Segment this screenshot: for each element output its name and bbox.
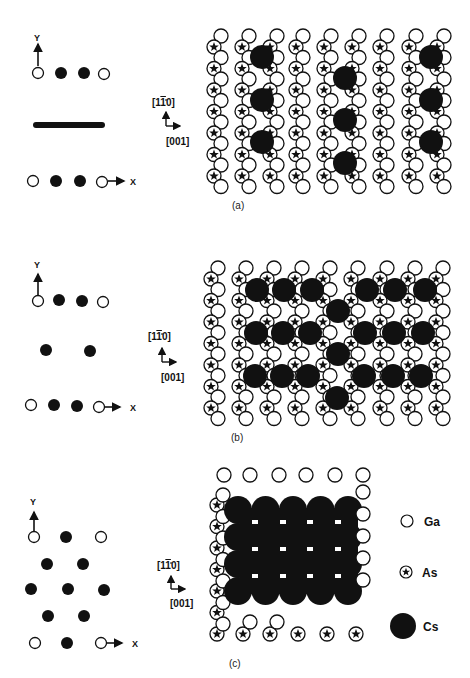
caption-c: (c) <box>229 658 241 669</box>
lattice-c <box>210 468 370 641</box>
schematic-b: Y X <box>26 260 137 413</box>
direction-001-label: [001] <box>170 598 193 609</box>
caption-b: (b) <box>231 432 243 443</box>
panel-b: Y X [110] [001] (b) <box>26 260 451 443</box>
svg-text:As: As <box>422 566 438 580</box>
legend: Ga As Cs <box>390 515 440 639</box>
schematic-c: Y X <box>25 497 138 649</box>
legend-item-as: As <box>400 566 438 580</box>
x-axis-label: X <box>132 639 138 649</box>
svg-text:Cs: Cs <box>423 620 439 634</box>
x-axis-label: X <box>130 177 136 187</box>
lattice-b <box>204 261 450 426</box>
y-axis-label: Y <box>34 260 40 270</box>
direction-indicator-b: [110] [001] <box>148 331 184 383</box>
lattice-a <box>207 29 451 194</box>
x-axis-label: X <box>130 403 136 413</box>
direction-110-label: [110] <box>152 97 175 108</box>
direction-001-label: [001] <box>166 136 189 147</box>
svg-text:Ga: Ga <box>424 515 440 529</box>
panel-c: Y X [110] [001] (c) <box>25 468 440 669</box>
legend-item-ga: Ga <box>401 515 440 529</box>
schematic-a: Y X <box>28 33 137 188</box>
y-axis-label: Y <box>30 497 36 507</box>
y-axis-label: Y <box>34 33 40 43</box>
direction-110-label: [110] <box>148 331 171 342</box>
ga-icon <box>401 515 413 527</box>
direction-110-label: [110] <box>157 560 180 571</box>
cs-icon <box>390 613 416 639</box>
cs-chain-bar <box>33 122 105 128</box>
panel-a: Y X [110] [001] (a) <box>28 29 452 211</box>
figure-canvas: Y X [110] [001] (a) Y <box>0 0 470 678</box>
direction-001-label: [001] <box>161 372 184 383</box>
direction-indicator-c: [110] [001] <box>157 560 193 609</box>
direction-indicator-a: [110] [001] <box>152 97 189 147</box>
caption-a: (a) <box>232 200 244 211</box>
legend-item-cs: Cs <box>390 613 439 639</box>
